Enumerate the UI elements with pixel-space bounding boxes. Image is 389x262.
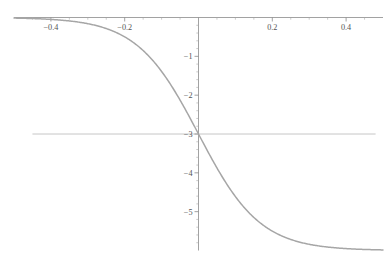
plot-canvas: −0.4−0.20.20.4 −1−2−3−4−5 <box>0 0 389 262</box>
y-tick-label: −3 <box>184 130 193 139</box>
x-tick-label: 0.4 <box>341 23 351 32</box>
y-tick-label: −1 <box>184 52 193 61</box>
x-tick-label: 0.2 <box>267 23 277 32</box>
plot-container: −0.4−0.20.20.4 −1−2−3−4−5 <box>0 0 389 262</box>
x-tick-label: −0.4 <box>43 23 58 32</box>
y-tick-label: −4 <box>184 169 193 178</box>
y-tick-label: −5 <box>184 208 193 217</box>
x-tick-label: −0.2 <box>117 23 132 32</box>
y-tick-labels: −1−2−3−4−5 <box>184 52 193 216</box>
y-tick-label: −2 <box>184 91 193 100</box>
